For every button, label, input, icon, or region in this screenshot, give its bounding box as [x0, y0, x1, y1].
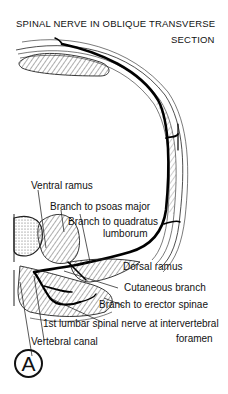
label-branch-erector: Branch to erector spinae — [99, 299, 208, 310]
label-lumbar-nerve-2: foramen — [176, 333, 213, 344]
panel-badge: A — [14, 349, 43, 378]
label-cutaneous-branch: Cutaneous branch — [124, 282, 206, 293]
label-dorsal-ramus: Dorsal ramus — [123, 261, 182, 272]
label-branch-psoas: Branch to psoas major — [50, 201, 150, 212]
label-lumbar-nerve-1: 1st lumbar spinal nerve at intervertebra… — [43, 318, 219, 329]
label-branch-quadratus-2: lumborum — [103, 228, 147, 239]
hatched-muscle-top — [19, 53, 109, 76]
label-ventral-ramus: Ventral ramus — [31, 180, 93, 191]
label-branch-quadratus-1: Branch to quadratus — [68, 216, 158, 227]
vertebral-body — [14, 217, 42, 257]
label-vertebral-canal: Vertebral canal — [31, 336, 98, 347]
